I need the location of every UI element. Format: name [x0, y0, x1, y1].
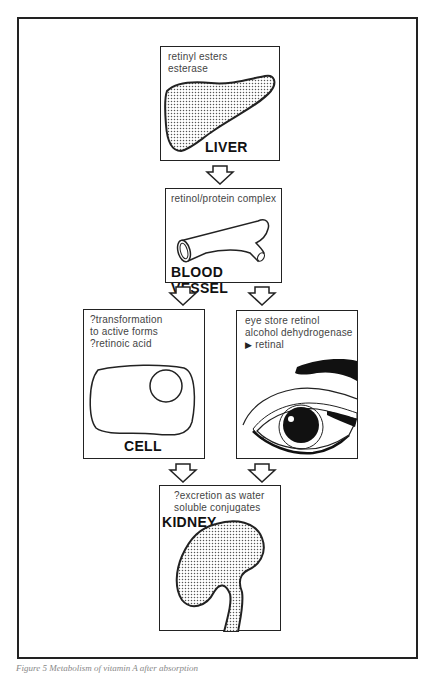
eye-box: eye store retinol alcohol dehydrogenase …	[236, 310, 358, 459]
kidney-note: ?excretion as water soluble conjugates	[174, 490, 265, 514]
cell-illustration	[84, 362, 204, 442]
arrow-blood-to-cell	[168, 286, 198, 306]
cell-note: ?transformation to active forms ?retinoi…	[90, 314, 162, 350]
eye-note-line-3: ▶ retinal	[245, 339, 353, 351]
eye-note-line-1: eye store retinol	[245, 315, 353, 327]
kidney-box: ?excretion as water soluble conjugates K…	[159, 485, 281, 631]
eye-illustration	[237, 353, 357, 458]
liver-note: retinyl esters esterase	[168, 51, 228, 75]
arrow-blood-to-eye	[247, 286, 277, 306]
blood-vessel-illustration	[166, 209, 281, 264]
eye-note-line-2: alcohol dehydrogenase	[245, 327, 353, 339]
cell-box: ?transformation to active forms ?retinoi…	[83, 309, 205, 459]
cell-label: CELL	[124, 438, 162, 454]
blood-vessel-box: retinol/protein complex BLOOD VESSEL	[165, 188, 282, 283]
liver-label: LIVER	[205, 139, 248, 155]
arrow-liver-to-blood	[205, 165, 235, 185]
triangle-arrow-icon: ▶	[245, 340, 252, 350]
arrow-eye-to-kidney	[247, 463, 277, 483]
figure-caption: Figure 5 Metabolism of vitamin A after a…	[16, 663, 198, 673]
eye-note: eye store retinol alcohol dehydrogenase …	[245, 315, 353, 351]
liver-box: retinyl esters esterase LIVER	[160, 46, 280, 161]
arrow-cell-to-kidney	[168, 463, 198, 483]
blood-vessel-note: retinol/protein complex	[171, 193, 276, 205]
kidney-illustration	[160, 512, 280, 632]
